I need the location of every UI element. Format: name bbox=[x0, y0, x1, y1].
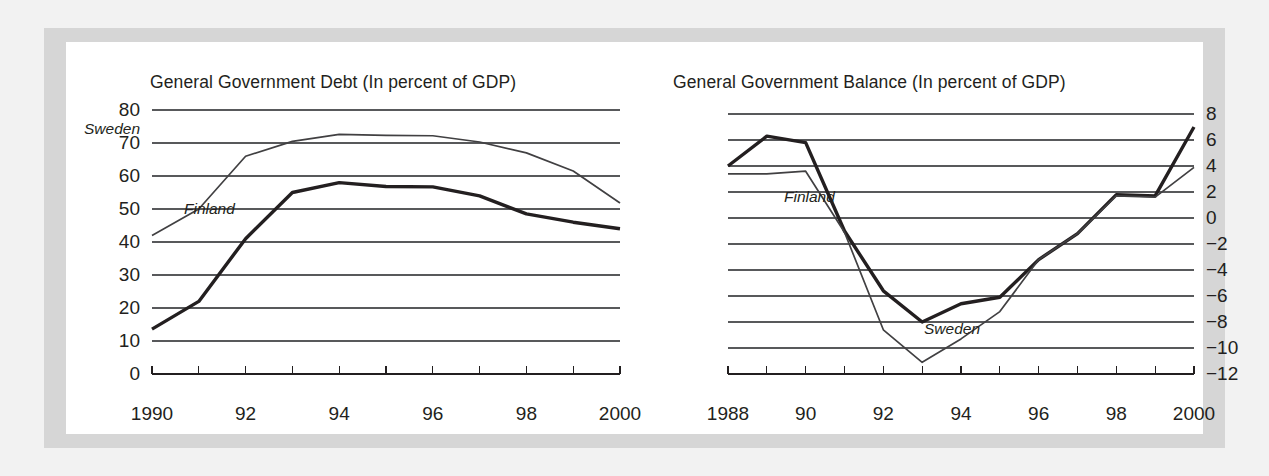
axis-debt bbox=[152, 366, 620, 374]
chart-svg-debt bbox=[66, 42, 656, 434]
x-tick-label: 2000 bbox=[1154, 404, 1234, 423]
series-annotation-sweden: Sweden bbox=[84, 120, 140, 138]
x-tick-label: 92 bbox=[843, 404, 923, 423]
y-tick-label: 6 bbox=[1206, 130, 1217, 149]
y-tick-label: −6 bbox=[1206, 286, 1228, 305]
series-annotation-sweden: Sweden bbox=[924, 320, 980, 338]
x-tick-label: 96 bbox=[999, 404, 1079, 423]
gridlines-debt bbox=[152, 110, 620, 341]
y-tick-label: 2 bbox=[1206, 182, 1217, 201]
x-tick-label: 98 bbox=[486, 404, 566, 423]
y-tick-label: 20 bbox=[66, 298, 140, 317]
chart-svg-balance bbox=[656, 42, 1203, 434]
y-tick-label: 0 bbox=[66, 364, 140, 383]
y-tick-label: −12 bbox=[1206, 364, 1238, 383]
y-tick-label: 10 bbox=[66, 331, 140, 350]
y-tick-label: 40 bbox=[66, 232, 140, 251]
gridlines-balance bbox=[728, 114, 1194, 348]
y-tick-label: 8 bbox=[1206, 104, 1217, 123]
x-tick-label: 2000 bbox=[580, 404, 660, 423]
series-lines-debt bbox=[152, 134, 620, 329]
figure-frame: General Government Debt (In percent of G… bbox=[44, 28, 1225, 448]
y-tick-label: −10 bbox=[1206, 338, 1238, 357]
axis-balance bbox=[728, 366, 1194, 374]
x-tick-label: 1990 bbox=[112, 404, 192, 423]
series-annotation-finland: Finland bbox=[784, 188, 835, 206]
y-tick-label: 60 bbox=[66, 166, 140, 185]
y-tick-label: 0 bbox=[1206, 208, 1217, 227]
chart-panels: General Government Debt (In percent of G… bbox=[66, 42, 1203, 434]
series-line-finland bbox=[728, 127, 1194, 322]
x-tick-label: 1988 bbox=[688, 404, 768, 423]
x-tick-label: 94 bbox=[921, 404, 1001, 423]
chart-panel-debt: General Government Debt (In percent of G… bbox=[66, 42, 656, 434]
y-tick-label: 30 bbox=[66, 265, 140, 284]
figure-plot-area: General Government Debt (In percent of G… bbox=[66, 42, 1203, 434]
chart-panel-balance: General Government Balance (In percent o… bbox=[656, 42, 1203, 434]
y-tick-label: −2 bbox=[1206, 234, 1228, 253]
x-tick-label: 94 bbox=[299, 404, 379, 423]
figure-root: General Government Debt (In percent of G… bbox=[0, 0, 1269, 476]
x-tick-label: 98 bbox=[1076, 404, 1156, 423]
y-tick-label: −4 bbox=[1206, 260, 1228, 279]
y-tick-label: 50 bbox=[66, 199, 140, 218]
series-annotation-finland: Finland bbox=[184, 200, 235, 218]
x-tick-label: 90 bbox=[766, 404, 846, 423]
x-tick-label: 96 bbox=[393, 404, 473, 423]
y-tick-label: −8 bbox=[1206, 312, 1228, 331]
x-tick-label: 92 bbox=[206, 404, 286, 423]
y-tick-label: 4 bbox=[1206, 156, 1217, 175]
y-tick-label: 80 bbox=[66, 100, 140, 119]
